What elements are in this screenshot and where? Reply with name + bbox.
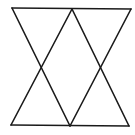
triangles-diagram [0,0,135,135]
up-triangle-left-side [11,9,72,125]
up-triangle-right-side [72,9,129,126]
diagram-lines [11,8,131,126]
